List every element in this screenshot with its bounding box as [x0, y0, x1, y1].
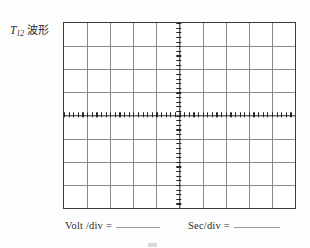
axis-tick-horizontal	[249, 112, 250, 117]
axis-tick-horizontal	[138, 112, 139, 117]
axis-tick-vertical	[176, 106, 181, 107]
axis-tick-horizontal	[295, 112, 296, 117]
scan-artifact	[148, 243, 157, 247]
axis-tick-vertical	[176, 92, 181, 93]
sec-per-div-blank[interactable]	[234, 227, 280, 228]
waveform-label: T12波形	[10, 21, 49, 37]
axis-tick-vertical	[176, 185, 181, 186]
axis-tick-horizontal	[184, 112, 185, 117]
axis-tick-horizontal	[110, 112, 111, 117]
axis-tick-horizontal	[152, 112, 153, 117]
axis-tick-vertical	[176, 55, 181, 56]
axis-tick-horizontal	[272, 112, 273, 117]
axis-tick-vertical	[176, 176, 181, 177]
axis-tick-horizontal	[263, 112, 264, 117]
axis-tick-horizontal	[189, 112, 190, 117]
axis-tick-horizontal	[166, 112, 167, 117]
axis-tick-horizontal	[69, 112, 70, 117]
axis-tick-vertical	[176, 37, 181, 38]
axis-tick-vertical	[176, 208, 181, 209]
axis-tick-vertical	[176, 97, 181, 98]
axis-tick-horizontal	[244, 112, 245, 117]
axis-tick-horizontal	[64, 112, 65, 117]
axis-tick-vertical	[176, 143, 181, 144]
axis-tick-vertical	[176, 116, 181, 117]
axis-tick-horizontal	[230, 112, 231, 117]
axis-tick-horizontal	[96, 112, 97, 117]
axis-tick-horizontal	[147, 112, 148, 117]
volts-per-div-label: Volt /div =	[65, 220, 112, 231]
axis-tick-vertical	[176, 23, 181, 24]
axis-tick-vertical	[176, 83, 181, 84]
axis-tick-horizontal	[87, 112, 88, 117]
axis-tick-vertical	[176, 88, 181, 89]
waveform-label-subscript: 12	[17, 29, 25, 38]
axis-tick-horizontal	[286, 112, 287, 117]
axis-tick-horizontal	[92, 112, 93, 117]
axis-tick-vertical	[176, 148, 181, 149]
axis-tick-horizontal	[253, 112, 254, 117]
axis-tick-vertical	[176, 162, 181, 163]
axis-tick-vertical	[176, 157, 181, 158]
axis-tick-horizontal	[129, 112, 130, 117]
axis-tick-horizontal	[203, 112, 204, 117]
axis-tick-horizontal	[170, 112, 171, 117]
axis-tick-vertical	[176, 79, 181, 80]
axis-tick-vertical	[176, 46, 181, 47]
axis-tick-vertical	[176, 199, 181, 200]
axis-tick-vertical	[176, 153, 181, 154]
axis-tick-horizontal	[193, 112, 194, 117]
axis-tick-vertical	[176, 120, 181, 121]
volts-per-div-field[interactable]: Volt /div =	[65, 220, 160, 231]
axis-tick-horizontal	[240, 112, 241, 117]
axis-tick-horizontal	[258, 112, 259, 117]
axis-tick-horizontal	[235, 112, 236, 117]
axis-tick-vertical	[176, 139, 181, 140]
axis-tick-vertical	[176, 102, 181, 103]
axis-tick-horizontal	[106, 112, 107, 117]
axis-tick-horizontal	[119, 112, 120, 117]
axis-tick-horizontal	[73, 112, 74, 117]
worksheet-page: T12波形 Volt /div = Sec/div =	[0, 0, 310, 248]
axis-tick-vertical	[176, 203, 181, 204]
axis-tick-horizontal	[267, 112, 268, 117]
graticule-vertical-axis	[179, 23, 180, 208]
axis-tick-vertical	[176, 28, 181, 29]
axis-tick-vertical	[176, 65, 181, 66]
waveform-label-text: 波形	[27, 24, 49, 37]
axis-tick-horizontal	[133, 112, 134, 117]
axis-tick-horizontal	[143, 112, 144, 117]
axis-tick-vertical	[176, 194, 181, 195]
axis-tick-vertical	[176, 190, 181, 191]
waveform-label-symbol: T	[10, 24, 17, 36]
axis-tick-vertical	[176, 32, 181, 33]
axis-tick-vertical	[176, 42, 181, 43]
axis-tick-horizontal	[212, 112, 213, 117]
settings-caption: Volt /div = Sec/div =	[63, 220, 296, 240]
axis-tick-horizontal	[101, 112, 102, 117]
axis-tick-horizontal	[277, 112, 278, 117]
volts-per-div-blank[interactable]	[116, 227, 160, 228]
axis-tick-horizontal	[221, 112, 222, 117]
axis-tick-horizontal	[198, 112, 199, 117]
axis-tick-horizontal	[124, 112, 125, 117]
sec-per-div-field[interactable]: Sec/div =	[188, 220, 280, 231]
axis-tick-vertical	[176, 74, 181, 75]
sec-per-div-label: Sec/div =	[188, 220, 230, 231]
axis-tick-horizontal	[281, 112, 282, 117]
axis-tick-horizontal	[216, 112, 217, 117]
oscilloscope-graticule	[63, 22, 296, 209]
axis-tick-horizontal	[226, 112, 227, 117]
axis-tick-horizontal	[161, 112, 162, 117]
axis-tick-horizontal	[207, 112, 208, 117]
axis-tick-vertical	[176, 134, 181, 135]
axis-tick-vertical	[176, 171, 181, 172]
axis-tick-vertical	[176, 60, 181, 61]
axis-tick-horizontal	[156, 112, 157, 117]
axis-tick-vertical	[176, 111, 181, 112]
axis-tick-vertical	[176, 125, 181, 126]
axis-tick-horizontal	[115, 112, 116, 117]
axis-tick-vertical	[176, 180, 181, 181]
axis-tick-vertical	[176, 51, 181, 52]
axis-tick-horizontal	[290, 112, 291, 117]
